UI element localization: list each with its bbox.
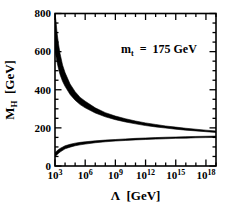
- x-axis-title-group: Λ [GeV]: [111, 188, 161, 203]
- y-tick-label-800: 800: [35, 7, 52, 19]
- figure-container: 103106109101210151018 0200400600800 Λ [G…: [0, 0, 232, 205]
- y-tick-label-400: 400: [35, 84, 52, 96]
- x-axis-title: Λ [GeV]: [111, 188, 161, 203]
- y-tick-label-600: 600: [35, 45, 52, 57]
- higgs-mass-bounds-plot: 103106109101210151018 0200400600800 Λ [G…: [0, 0, 232, 205]
- y-tick-label-200: 200: [35, 122, 52, 134]
- y-tick-label-0: 0: [46, 160, 52, 172]
- y-axis-title: MH [GeV]: [2, 60, 19, 120]
- y-axis-title-group: MH [GeV]: [2, 60, 19, 120]
